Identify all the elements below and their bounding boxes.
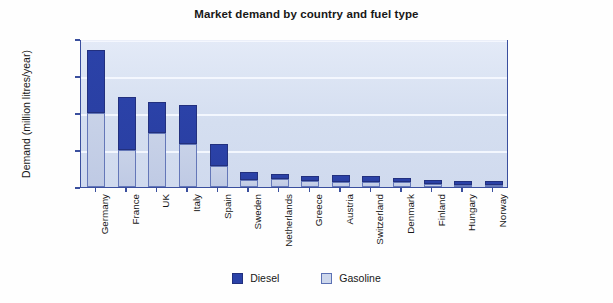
legend-label-gasoline: Gasoline xyxy=(339,272,380,284)
bar-group[interactable] xyxy=(485,181,503,187)
bar-segment-diesel[interactable] xyxy=(424,180,442,185)
bar-segment-diesel[interactable] xyxy=(240,172,258,179)
bar-segment-diesel[interactable] xyxy=(454,181,472,185)
x-tick-label-austria: Austria xyxy=(344,194,355,225)
x-tick-mark xyxy=(278,188,280,192)
legend-swatch-gasoline xyxy=(321,273,332,284)
x-tick-label-sweden: Sweden xyxy=(252,194,263,229)
y-tick-mark xyxy=(75,76,80,78)
x-tick-mark xyxy=(400,188,402,192)
x-tick-mark xyxy=(431,188,433,192)
bar-group[interactable] xyxy=(454,181,472,187)
bar-group[interactable] xyxy=(179,105,197,187)
x-tick-mark xyxy=(156,188,158,192)
x-tick-mark xyxy=(309,188,311,192)
chart-figure: Market demand by country and fuel type D… xyxy=(0,0,613,303)
bar-group[interactable] xyxy=(210,144,228,187)
bar-segment-gasoline[interactable] xyxy=(179,144,197,187)
legend-label-diesel: Diesel xyxy=(250,272,279,284)
x-tick-label-hungary: Hungary xyxy=(466,194,477,231)
x-tick-mark xyxy=(492,188,494,192)
bar-segment-gasoline[interactable] xyxy=(424,184,442,187)
bar-segment-diesel[interactable] xyxy=(87,50,105,113)
bar-group[interactable] xyxy=(424,180,442,187)
bar-group[interactable] xyxy=(301,176,319,187)
bar-segment-diesel[interactable] xyxy=(148,102,166,133)
x-tick-mark xyxy=(461,188,463,192)
bar-segment-gasoline[interactable] xyxy=(271,179,289,187)
bar-group[interactable] xyxy=(393,178,411,187)
bar-group[interactable] xyxy=(148,102,166,187)
y-tick-mark xyxy=(75,187,80,189)
bar-segment-gasoline[interactable] xyxy=(332,182,350,187)
bar-group[interactable] xyxy=(271,174,289,187)
bar-segment-gasoline[interactable] xyxy=(210,166,228,187)
bar-group[interactable] xyxy=(87,50,105,187)
x-tick-label-denmark: Denmark xyxy=(405,194,416,234)
x-tick-label-greece: Greece xyxy=(313,194,324,226)
bar-segment-gasoline[interactable] xyxy=(362,182,380,187)
bar-group[interactable] xyxy=(362,176,380,187)
plot-area xyxy=(80,40,508,188)
x-tick-mark xyxy=(247,188,249,192)
x-tick-mark xyxy=(370,188,372,192)
x-tick-mark xyxy=(339,188,341,192)
legend-item-diesel: Diesel xyxy=(232,272,279,284)
x-tick-label-france: France xyxy=(130,194,141,225)
bar-segment-gasoline[interactable] xyxy=(240,180,258,187)
bar-segment-diesel[interactable] xyxy=(301,176,319,182)
bar-segment-diesel[interactable] xyxy=(118,97,136,150)
x-tick-label-netherlands: Netherlands xyxy=(283,194,294,247)
bar-segment-gasoline[interactable] xyxy=(485,185,503,187)
bar-segment-diesel[interactable] xyxy=(271,174,289,179)
bar-segment-diesel[interactable] xyxy=(332,175,350,182)
chart-legend: Diesel Gasoline xyxy=(0,272,613,284)
bar-segment-gasoline[interactable] xyxy=(118,150,136,187)
bar-segment-gasoline[interactable] xyxy=(87,113,105,187)
x-tick-label-norway: Norway xyxy=(497,194,508,227)
x-tick-label-finland: Finland xyxy=(436,194,447,226)
bar-group[interactable] xyxy=(118,97,136,187)
bar-group[interactable] xyxy=(332,175,350,187)
bar-segment-gasoline[interactable] xyxy=(148,133,166,187)
y-tick-mark xyxy=(75,150,80,152)
bar-segment-gasoline[interactable] xyxy=(454,185,472,187)
y-axis-title: Demand (million litres/year) xyxy=(20,34,32,194)
x-tick-label-switzerland: Switzerland xyxy=(374,194,385,245)
bars-layer xyxy=(81,41,507,187)
bar-segment-gasoline[interactable] xyxy=(301,181,319,187)
chart-title: Market demand by country and fuel type xyxy=(0,8,613,20)
bar-group[interactable] xyxy=(240,172,258,187)
x-tick-label-italy: Italy xyxy=(191,194,202,212)
x-tick-mark xyxy=(95,188,97,192)
legend-item-gasoline: Gasoline xyxy=(321,272,380,284)
bar-segment-diesel[interactable] xyxy=(393,178,411,183)
x-tick-label-germany: Germany xyxy=(99,194,110,234)
bar-segment-diesel[interactable] xyxy=(485,181,503,185)
y-tick-mark xyxy=(75,113,80,115)
x-tick-mark xyxy=(217,188,219,192)
x-tick-mark xyxy=(125,188,127,192)
x-tick-label-uk: UK xyxy=(160,194,171,208)
bar-segment-gasoline[interactable] xyxy=(393,182,411,187)
y-tick-mark xyxy=(75,39,80,41)
bar-segment-diesel[interactable] xyxy=(179,105,197,145)
legend-swatch-diesel xyxy=(232,273,243,284)
x-tick-mark xyxy=(186,188,188,192)
x-tick-label-spain: Spain xyxy=(222,194,233,219)
bar-segment-diesel[interactable] xyxy=(362,176,380,182)
bar-segment-diesel[interactable] xyxy=(210,144,228,166)
